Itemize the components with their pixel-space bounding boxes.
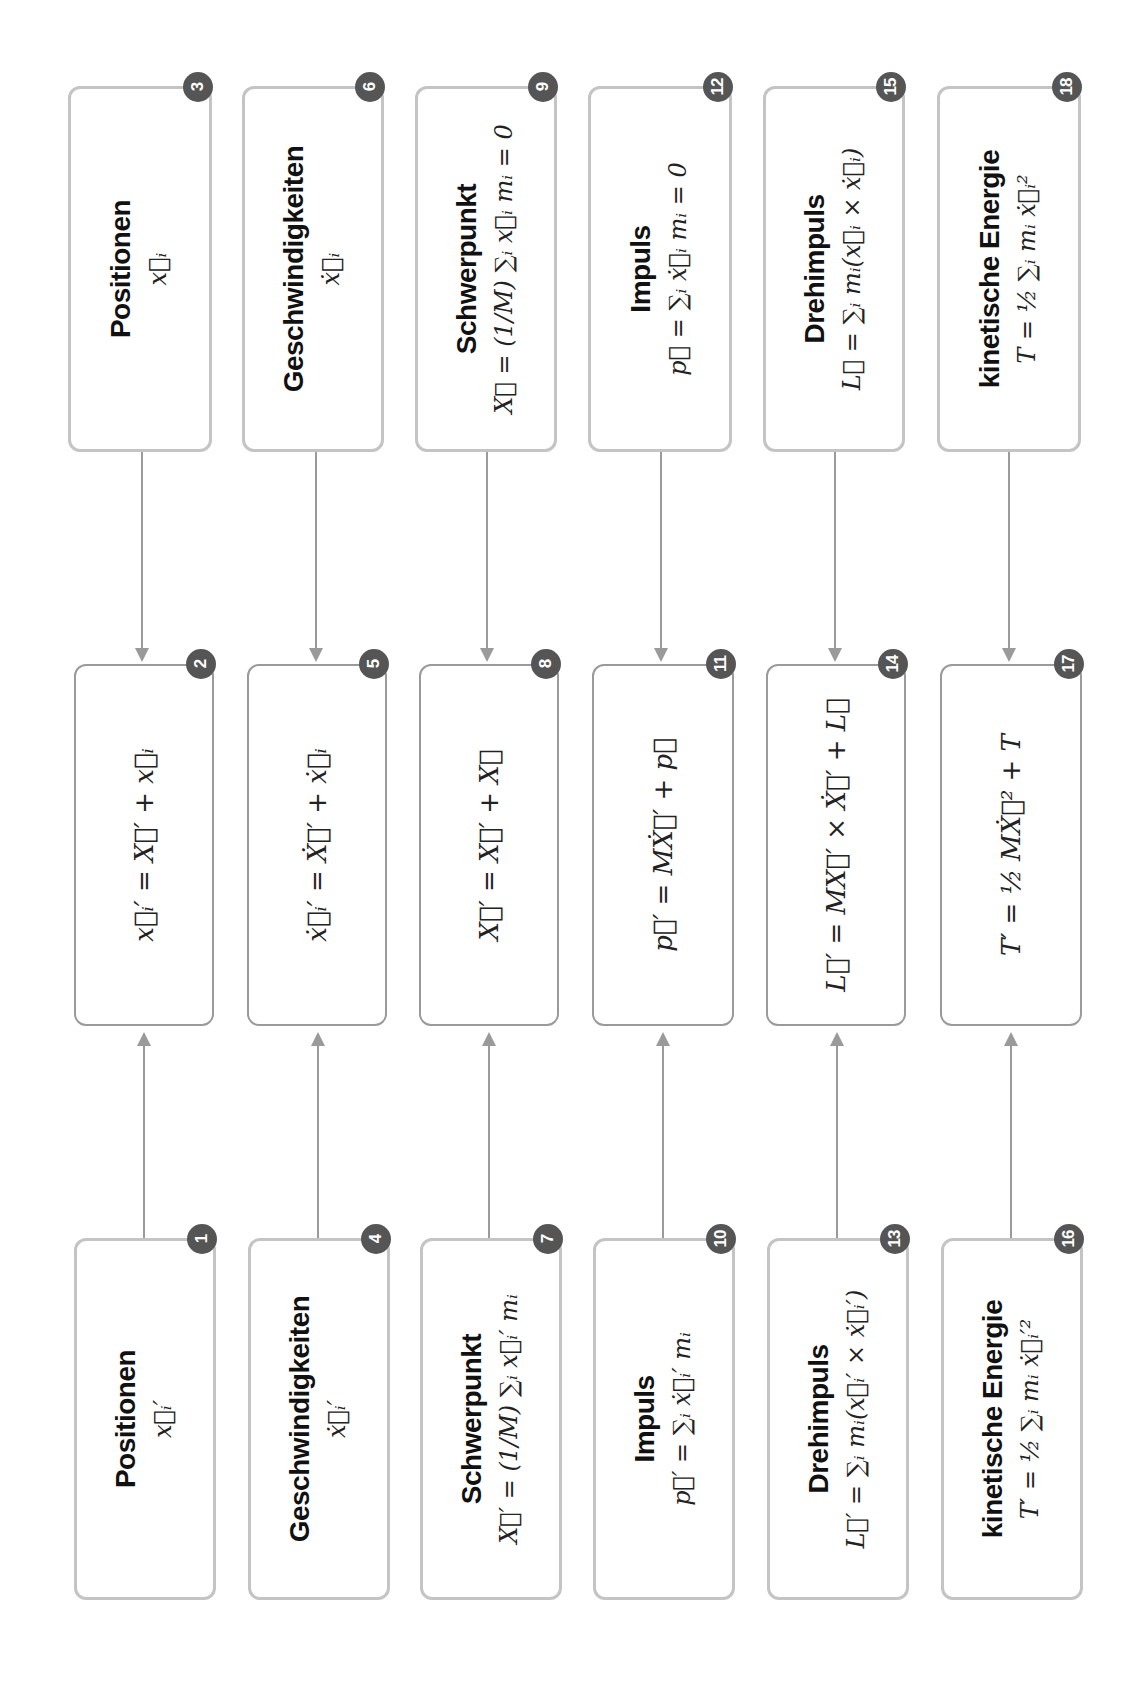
- box-content: Drehimpuls L⃗′ = ∑ᵢ mᵢ(x⃗ᵢ′ × ẋ⃗ᵢ′): [803, 1290, 873, 1549]
- arrow-line: [836, 1044, 838, 1240]
- box-content: Impuls p⃗ = ∑ᵢ ẋ⃗ᵢ mᵢ = 0: [625, 162, 695, 375]
- box-formula: ẋ⃗ᵢ: [314, 253, 348, 286]
- box-title: Geschwindigkeiten: [284, 1296, 316, 1543]
- step-badge: 1: [187, 1224, 217, 1254]
- box-title: kinetische Energie: [974, 150, 1006, 388]
- box-formula: L⃗′ = ∑ᵢ mᵢ(x⃗ᵢ′ × ẋ⃗ᵢ′): [839, 1290, 873, 1549]
- box-middle-velocity-transform: 5 ẋ⃗ᵢ′ = Ẋ⃗′ + ẋ⃗ᵢ: [247, 664, 387, 1026]
- arrow-down-icon: [309, 648, 323, 662]
- box-title: kinetische Energie: [977, 1300, 1009, 1538]
- box-formula: ẋ⃗ᵢ′ = Ẋ⃗′ + ẋ⃗ᵢ: [300, 748, 334, 942]
- arrow-line: [141, 452, 143, 650]
- arrow-down-icon: [1002, 648, 1016, 662]
- box-content: ẋ⃗ᵢ′ = Ẋ⃗′ + ẋ⃗ᵢ: [300, 748, 334, 942]
- box-content: Geschwindigkeiten ẋ⃗ᵢ′: [284, 1296, 354, 1543]
- box-content: kinetische Energie T = ½ ∑ᵢ mᵢ ẋ⃗ᵢ²: [974, 150, 1044, 388]
- box-formula: p⃗ = ∑ᵢ ẋ⃗ᵢ mᵢ = 0: [661, 162, 695, 375]
- box-middle-momentum-transform: 11 p⃗′ = MẊ⃗′ + p⃗: [592, 664, 734, 1026]
- box-title: Positionen: [110, 1350, 142, 1488]
- box-bottom-kinetische-energie: 16 kinetische Energie T′ = ½ ∑ᵢ mᵢ ẋ⃗ᵢ′²: [941, 1238, 1083, 1600]
- step-badge: 8: [531, 649, 561, 679]
- arrow-line: [1010, 1044, 1012, 1240]
- step-badge: 11: [706, 649, 736, 679]
- box-content: Schwerpunkt X⃗ = (1/M) ∑ᵢ x⃗ᵢ mᵢ = 0: [451, 124, 521, 413]
- box-formula: T′ = ½ MẊ⃗² + T: [994, 734, 1028, 956]
- box-bottom-geschwindigkeiten: 4 Geschwindigkeiten ẋ⃗ᵢ′: [248, 1238, 390, 1600]
- step-badge: 6: [355, 72, 385, 102]
- box-title: Positionen: [105, 200, 137, 338]
- box-content: X⃗′ = X⃗′ + X⃗: [472, 750, 506, 941]
- arrow-line: [486, 452, 488, 650]
- step-badge: 14: [878, 649, 908, 679]
- box-bottom-schwerpunkt: 7 Schwerpunkt X⃗′ = (1/M) ∑ᵢ x⃗ᵢ′ mᵢ: [420, 1238, 562, 1600]
- step-badge: 9: [528, 72, 558, 102]
- box-middle-angular-momentum-transform: 14 L⃗′ = MX⃗′ × Ẋ⃗′ + L⃗: [766, 664, 906, 1026]
- box-title: Geschwindigkeiten: [278, 146, 310, 393]
- step-badge: 16: [1054, 1224, 1084, 1254]
- box-top-positionen: 3 Positionen x⃗ᵢ: [68, 86, 212, 452]
- box-content: T′ = ½ MẊ⃗² + T: [994, 734, 1028, 956]
- arrow-line: [834, 452, 836, 650]
- box-top-impuls: 12 Impuls p⃗ = ∑ᵢ ẋ⃗ᵢ mᵢ = 0: [588, 86, 732, 452]
- arrow-line: [488, 1044, 490, 1240]
- arrow-line: [143, 1044, 145, 1240]
- step-badge: 12: [703, 72, 733, 102]
- box-bottom-impuls: 10 Impuls p⃗′ = ∑ᵢ ẋ⃗ᵢ′ mᵢ: [593, 1238, 735, 1600]
- arrow-down-icon: [480, 648, 494, 662]
- step-badge: 17: [1054, 649, 1084, 679]
- box-formula: ẋ⃗ᵢ′: [320, 1400, 354, 1438]
- arrow-line: [660, 452, 662, 650]
- arrow-down-icon: [828, 648, 842, 662]
- box-title: Schwerpunkt: [451, 184, 483, 354]
- box-middle-position-transform: 2 x⃗ᵢ′ = X⃗′ + x⃗ᵢ: [74, 664, 214, 1026]
- box-formula: X⃗′ = (1/M) ∑ᵢ x⃗ᵢ′ mᵢ: [492, 1294, 526, 1544]
- box-formula: L⃗ = ∑ᵢ mᵢ(x⃗ᵢ × ẋ⃗ᵢ): [835, 148, 869, 391]
- step-badge: 18: [1052, 72, 1082, 102]
- step-badge: 3: [183, 72, 213, 102]
- box-middle-kinetic-energy-transform: 17 T′ = ½ MẊ⃗² + T: [940, 664, 1082, 1026]
- box-formula: p⃗′ = ∑ᵢ ẋ⃗ᵢ′ mᵢ: [665, 1332, 699, 1506]
- box-top-schwerpunkt: 9 Schwerpunkt X⃗ = (1/M) ∑ᵢ x⃗ᵢ mᵢ = 0: [415, 86, 557, 452]
- box-top-kinetische-energie: 18 kinetische Energie T = ½ ∑ᵢ mᵢ ẋ⃗ᵢ²: [937, 86, 1081, 452]
- box-content: kinetische Energie T′ = ½ ∑ᵢ mᵢ ẋ⃗ᵢ′²: [977, 1300, 1047, 1538]
- box-title: Schwerpunkt: [456, 1334, 488, 1504]
- box-formula: x⃗ᵢ′: [146, 1400, 180, 1438]
- box-content: Drehimpuls L⃗ = ∑ᵢ mᵢ(x⃗ᵢ × ẋ⃗ᵢ): [799, 148, 869, 391]
- step-badge: 2: [186, 649, 216, 679]
- box-title: Drehimpuls: [803, 1344, 835, 1493]
- box-formula: x⃗ᵢ: [141, 253, 175, 286]
- step-badge: 15: [876, 72, 906, 102]
- arrow-line: [315, 452, 317, 650]
- box-formula: T′ = ½ ∑ᵢ mᵢ ẋ⃗ᵢ′²: [1013, 1319, 1047, 1519]
- box-formula: X⃗ = (1/M) ∑ᵢ x⃗ᵢ mᵢ = 0: [487, 124, 521, 413]
- box-content: p⃗′ = MẊ⃗′ + p⃗: [646, 738, 680, 952]
- step-badge: 13: [880, 1224, 910, 1254]
- arrow-line: [1008, 452, 1010, 650]
- box-content: Geschwindigkeiten ẋ⃗ᵢ: [278, 146, 348, 393]
- step-badge: 7: [533, 1224, 563, 1254]
- box-content: x⃗ᵢ′ = X⃗′ + x⃗ᵢ: [127, 748, 161, 942]
- box-content: Positionen x⃗ᵢ′: [110, 1350, 180, 1488]
- box-top-drehimpuls: 15 Drehimpuls L⃗ = ∑ᵢ mᵢ(x⃗ᵢ × ẋ⃗ᵢ): [763, 86, 905, 452]
- box-bottom-drehimpuls: 13 Drehimpuls L⃗′ = ∑ᵢ mᵢ(x⃗ᵢ′ × ẋ⃗ᵢ′): [767, 1238, 909, 1600]
- box-content: Positionen x⃗ᵢ: [105, 200, 175, 338]
- box-title: Drehimpuls: [799, 194, 831, 343]
- box-formula: x⃗ᵢ′ = X⃗′ + x⃗ᵢ: [127, 748, 161, 942]
- box-formula: p⃗′ = MẊ⃗′ + p⃗: [646, 738, 680, 952]
- box-formula: X⃗′ = X⃗′ + X⃗: [472, 750, 506, 941]
- step-badge: 4: [361, 1224, 391, 1254]
- box-middle-center-of-mass-transform: 8 X⃗′ = X⃗′ + X⃗: [419, 664, 559, 1026]
- box-title: Impuls: [625, 225, 657, 312]
- arrow-line: [662, 1044, 664, 1240]
- box-content: L⃗′ = MX⃗′ × Ẋ⃗′ + L⃗: [819, 698, 853, 991]
- arrow-down-icon: [654, 648, 668, 662]
- box-bottom-positionen: 1 Positionen x⃗ᵢ′: [74, 1238, 216, 1600]
- step-badge: 5: [359, 649, 389, 679]
- arrow-down-icon: [135, 648, 149, 662]
- box-content: Impuls p⃗′ = ∑ᵢ ẋ⃗ᵢ′ mᵢ: [629, 1332, 699, 1506]
- box-formula: T = ½ ∑ᵢ mᵢ ẋ⃗ᵢ²: [1010, 174, 1044, 363]
- arrow-line: [317, 1044, 319, 1240]
- box-title: Impuls: [629, 1375, 661, 1462]
- step-badge: 10: [706, 1224, 736, 1254]
- box-top-geschwindigkeiten: 6 Geschwindigkeiten ẋ⃗ᵢ: [242, 86, 384, 452]
